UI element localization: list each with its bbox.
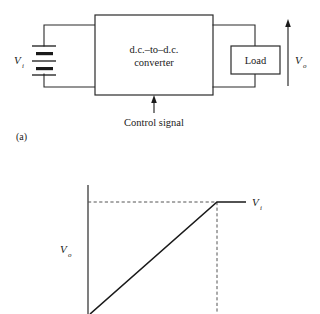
- load-label: Load: [245, 55, 267, 66]
- input-voltage-label: V: [14, 54, 22, 66]
- input-circuit-wires: [44, 25, 95, 87]
- chart-curve-output-characteristic: [90, 202, 246, 314]
- figure-container: V i d.c.–to–d.c. converter Load V o: [0, 0, 320, 314]
- output-voltage-label: V: [295, 54, 303, 66]
- wire-source-top: [44, 25, 95, 46]
- converter-label-line2: converter: [134, 57, 174, 68]
- chart-curve-label-subscript: i: [260, 204, 262, 212]
- output-voltage-arrow: [285, 19, 291, 86]
- panel-a-group: V i d.c.–to–d.c. converter Load V o: [14, 15, 307, 143]
- wire-source-bottom: [44, 74, 95, 87]
- chart-curve-label: V: [252, 196, 260, 208]
- output-voltage-subscript: o: [303, 62, 307, 70]
- panel-b-chart-group: V o V i: [60, 185, 262, 314]
- arrowhead-up-icon: [285, 19, 291, 27]
- control-signal-label: Control signal: [124, 117, 184, 128]
- battery-icon: [32, 46, 56, 75]
- arrowhead-up-icon: [151, 95, 157, 103]
- figure-svg: V i d.c.–to–d.c. converter Load V o: [0, 0, 320, 314]
- panel-a-caption: (a): [16, 131, 27, 143]
- input-voltage-subscript: i: [22, 62, 24, 70]
- converter-box: [95, 15, 213, 95]
- chart-ylabel-subscript: o: [68, 251, 72, 259]
- wire-output-bottom: [213, 74, 255, 87]
- chart-ylabel: V: [60, 243, 68, 255]
- converter-label-line1: d.c.–to–d.c.: [130, 44, 179, 55]
- control-signal-arrow: [151, 95, 157, 113]
- wire-output-top: [213, 25, 255, 46]
